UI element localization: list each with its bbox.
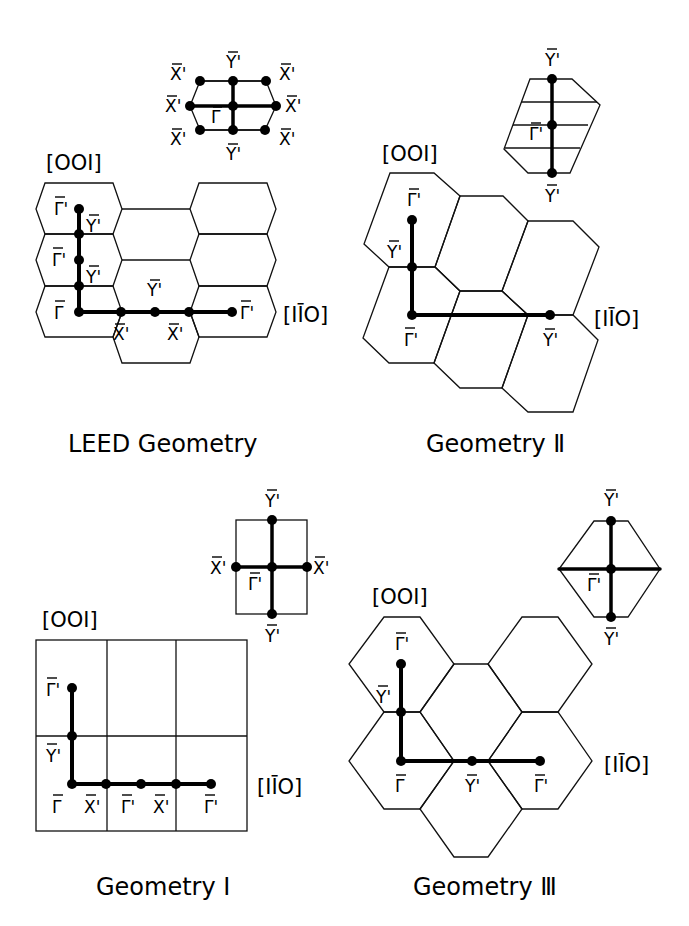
label-x-prime: X' bbox=[279, 64, 295, 84]
label-gamma-prime: Γ' bbox=[240, 303, 254, 323]
label-y-prime: Y' bbox=[85, 267, 101, 287]
axis-label-001: [OOI] bbox=[382, 142, 438, 166]
label-y-prime: Y' bbox=[225, 52, 241, 72]
axis-label-001: [OOI] bbox=[372, 585, 428, 609]
axis-label-1-10: [IĪO] bbox=[594, 307, 639, 331]
geom2-inset-zone: Y' Γ' Y' bbox=[504, 49, 600, 206]
geom3-inset-zone: Y' Γ' Y' bbox=[559, 490, 660, 649]
label-gamma: Γ bbox=[211, 107, 221, 127]
label-y-prime: Y' bbox=[264, 491, 280, 511]
label-y-prime: Y' bbox=[375, 687, 391, 707]
caption-geometry-3: Geometry Ⅲ bbox=[413, 873, 557, 901]
label-gamma-prime: Γ' bbox=[121, 797, 135, 817]
caption-geometry-1: Geometry Ⅰ bbox=[96, 873, 230, 901]
label-y-prime: Y' bbox=[85, 216, 101, 236]
label-y-prime: Y' bbox=[264, 626, 280, 646]
label-x-prime: X' bbox=[165, 96, 181, 116]
label-x-prime: X' bbox=[210, 558, 226, 578]
label-gamma-prime: Γ' bbox=[395, 634, 409, 654]
label-y-prime: Y' bbox=[146, 280, 162, 300]
label-y-prime: Y' bbox=[386, 242, 402, 262]
label-gamma-prime: Γ' bbox=[529, 124, 543, 144]
label-x-prime: X' bbox=[84, 797, 100, 817]
panel-geometry-3: Y' Γ' Y' Γ' Y' Γ Y' Γ' bbox=[349, 490, 660, 901]
leed-path-labels: Γ' Y' Γ' Y' Γ X' Y' X' Γ' bbox=[52, 197, 254, 344]
axis-label-001: [OOI] bbox=[42, 608, 98, 632]
label-gamma-prime: Γ' bbox=[204, 797, 218, 817]
label-gamma-prime: Γ' bbox=[52, 250, 66, 270]
label-y-prime: Y' bbox=[603, 629, 619, 649]
panel-geometry-2: Y' Γ' Y' Γ' Y' Γ' Y' [OOI] [IĪ bbox=[363, 49, 639, 458]
label-gamma-prime: Γ' bbox=[534, 776, 548, 796]
brillouin-zone-figure: Y' Y' Γ X' X' X' X' X' X' bbox=[0, 0, 689, 926]
label-y-prime: Y' bbox=[544, 186, 560, 206]
geom3-zone-cells bbox=[349, 617, 592, 857]
leed-zone-cells bbox=[36, 183, 276, 363]
label-gamma-prime: Γ' bbox=[404, 330, 418, 350]
label-gamma-prime: Γ' bbox=[248, 574, 262, 594]
label-y-prime: Y' bbox=[225, 144, 241, 164]
geom2-zone-cells bbox=[363, 173, 599, 412]
axis-label-1-10: [IĪO] bbox=[283, 303, 328, 327]
label-x-prime: X' bbox=[170, 129, 186, 149]
label-x-prime: X' bbox=[170, 64, 186, 84]
geom1-inset-zone: Y' X' X' Γ' Y' bbox=[210, 490, 329, 646]
label-gamma: Γ bbox=[395, 776, 405, 796]
label-y-prime: Y' bbox=[544, 50, 560, 70]
label-y-prime: Y' bbox=[45, 746, 61, 766]
leed-inset-zone: Y' Y' Γ X' X' X' X' X' X' bbox=[165, 52, 301, 164]
caption-leed-geometry: LEED Geometry bbox=[68, 430, 257, 458]
label-y-prime: Y' bbox=[603, 490, 619, 510]
label-y-prime: Y' bbox=[464, 776, 480, 796]
label-y-prime: Y' bbox=[542, 330, 558, 350]
axis-label-001: [OOI] bbox=[46, 151, 102, 175]
panel-leed-geometry: Y' Y' Γ X' X' X' X' X' X' bbox=[36, 52, 328, 458]
caption-geometry-2: Geometry Ⅱ bbox=[426, 430, 565, 458]
label-x-prime: X' bbox=[313, 558, 329, 578]
axis-label-1-10: [IĪO] bbox=[604, 753, 649, 777]
label-x-prime: X' bbox=[279, 129, 295, 149]
label-gamma: Γ bbox=[54, 303, 64, 323]
axis-label-1-10: [IĪO] bbox=[257, 775, 302, 799]
label-gamma-prime: Γ' bbox=[46, 680, 60, 700]
label-x-prime: X' bbox=[153, 797, 169, 817]
label-x-prime: X' bbox=[285, 96, 301, 116]
label-gamma-prime: Γ' bbox=[587, 575, 601, 595]
label-gamma-prime: Γ' bbox=[54, 199, 68, 219]
label-gamma-prime: Γ' bbox=[407, 190, 421, 210]
panel-geometry-1: Y' X' X' Γ' Y' Γ' Y' Γ X' Γ' bbox=[36, 490, 329, 901]
label-x-prime: X' bbox=[167, 324, 183, 344]
label-x-prime: X' bbox=[113, 324, 129, 344]
label-gamma: Γ bbox=[52, 797, 62, 817]
